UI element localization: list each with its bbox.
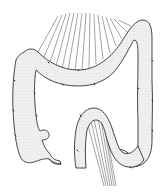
- colon-illustration: [0, 0, 164, 195]
- sigmoid-colon: [75, 108, 145, 168]
